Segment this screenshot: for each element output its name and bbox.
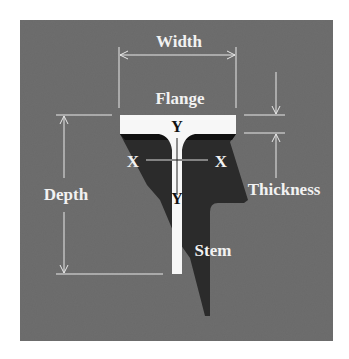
width-label: Width: [156, 32, 203, 51]
y-axis-label-bottom: Y: [171, 190, 183, 207]
t-beam-diagram: Width Flange Depth Thickness Stem X X Y …: [0, 0, 349, 359]
x-axis-label-right: X: [215, 152, 228, 171]
stem-label: Stem: [195, 241, 232, 260]
flange-label: Flange: [155, 89, 205, 108]
depth-label: Depth: [44, 185, 89, 204]
x-axis-label-left: X: [127, 152, 140, 171]
thickness-label: Thickness: [248, 180, 321, 199]
y-axis-label-top: Y: [171, 118, 183, 135]
